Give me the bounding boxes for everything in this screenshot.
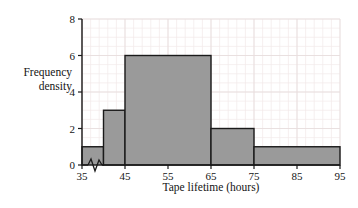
y-axis-title-line2: density <box>39 80 72 93</box>
histogram-figure: 35455565758595 02468 Tape lifetime (hour… <box>0 0 358 208</box>
chart-canvas: 35455565758595 02468 Tape lifetime (hour… <box>0 0 358 208</box>
histogram-bar <box>104 110 126 165</box>
x-tick-label: 45 <box>120 170 132 182</box>
y-tick-label: 2 <box>70 123 76 135</box>
y-axis-tick-labels: 02468 <box>70 13 76 171</box>
histogram-bar <box>254 147 340 165</box>
y-axis-title-line1: Frequency <box>23 66 72 79</box>
histogram-bar <box>125 56 211 166</box>
y-tick-label: 0 <box>70 159 76 171</box>
histogram-bar <box>211 129 254 166</box>
x-tick-label: 85 <box>292 170 304 182</box>
y-tick-label: 6 <box>70 50 76 62</box>
x-tick-label: 35 <box>77 170 89 182</box>
x-tick-label: 95 <box>335 170 347 182</box>
x-axis-title: Tape lifetime (hours) <box>163 181 260 194</box>
y-tick-label: 8 <box>70 13 76 25</box>
